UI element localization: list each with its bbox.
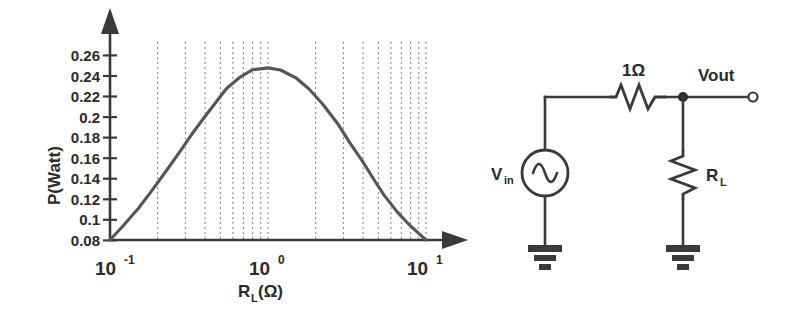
chart-gridlines [158,42,426,240]
y-axis-title-text: P(Watt) [45,146,64,205]
output-node-label: Vout [698,66,735,85]
x-axis-title-main: R [238,282,250,301]
y-tick-label-6: 0.14 [71,170,101,187]
series-resistor-1ohm: 1Ω [610,61,666,109]
x-axis-title-unit: (Ω) [258,282,283,301]
x-tick-labels: 10 -1 10 0 10 1 [95,253,443,279]
chart-svg: 0.26 0.24 0.22 0.2 0.18 0.16 0.14 0.12 0… [0,0,470,314]
x-axis-title: R L (Ω) [238,282,283,304]
x-tick-label-1: 10 0 [249,253,285,279]
x-tick-exp-0: -1 [124,253,135,267]
ground-bar-1-icon [528,245,562,252]
circuit-svg: 1Ω Vout V in R L [470,0,788,314]
y-axis [101,8,119,240]
y-tick-label-3: 0.2 [79,109,100,126]
x-axis-arrowhead [442,231,468,249]
y-tick-label-4: 0.18 [71,129,100,146]
load-resistor-label-sub: L [720,176,727,188]
ground-bar-3-icon [539,264,551,270]
ground-symbol-load [666,245,700,270]
ground-bar-2-icon [534,255,556,261]
ground-bar-1-icon [666,245,700,252]
x-tick-exp-2: 1 [436,253,443,267]
source-load-circuit-diagram: 1Ω Vout V in R L [470,0,788,314]
y-tick-label-0: 0.26 [71,47,100,64]
series-resistor-zigzag [610,85,666,109]
y-tick-label-7: 0.12 [71,191,100,208]
source-label-main: V [491,165,503,184]
figure-root: 0.26 0.24 0.22 0.2 0.18 0.16 0.14 0.12 0… [0,0,788,314]
ground-bar-2-icon [672,255,694,261]
y-tick-label-8: 0.1 [79,211,100,228]
ground-symbol-source [528,245,562,270]
x-tick-label-0: 10 -1 [95,253,135,279]
x-tick-exp-1: 0 [278,253,285,267]
x-tick-base-2: 10 [407,258,428,279]
source-label-sub: in [504,174,514,186]
power-vs-load-chart: 0.26 0.24 0.22 0.2 0.18 0.16 0.14 0.12 0… [0,0,470,314]
y-tick-label-2: 0.22 [71,88,100,105]
x-tick-label-2: 10 1 [407,253,443,279]
x-tick-base-1: 10 [249,258,270,279]
open-terminal-icon [749,93,758,102]
load-resistor-label-main: R [706,166,718,185]
x-axis [110,231,468,249]
series-resistor-label: 1Ω [622,61,645,80]
y-tick-label-1: 0.24 [71,68,101,85]
x-tick-base-0: 10 [95,258,116,279]
y-tick-labels: 0.26 0.24 0.22 0.2 0.18 0.16 0.14 0.12 0… [71,47,101,249]
load-resistor-zigzag [671,150,695,200]
y-axis-title: P(Watt) [45,146,64,205]
ac-voltage-source: V in [491,150,568,245]
ground-bar-3-icon [677,264,689,270]
load-resistor-RL: R L [671,97,727,245]
y-axis-arrowhead [101,8,119,34]
y-tick-label-9: 0.08 [71,232,100,249]
x-axis-title-sub: L [251,292,258,304]
y-tick-label-5: 0.16 [71,150,100,167]
